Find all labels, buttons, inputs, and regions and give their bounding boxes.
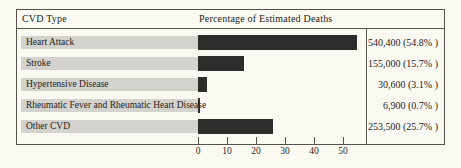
category-label: Stroke bbox=[26, 57, 51, 70]
cvd-deaths-figure: CVD Type Percentage of Estimated Deaths … bbox=[0, 0, 461, 168]
category-strip: Heart Attack bbox=[21, 36, 199, 49]
value-label: 30,600 (3.1% ) bbox=[378, 77, 438, 92]
value-label: 155,000 (15.7% ) bbox=[368, 56, 438, 71]
category-label: Other CVD bbox=[26, 120, 70, 133]
axis-tick bbox=[227, 137, 228, 144]
axis-tick bbox=[314, 137, 315, 144]
column-header-percentage: Percentage of Estimated Deaths bbox=[199, 10, 332, 28]
bar-other-cvd bbox=[198, 119, 273, 134]
value-label: 6,900 (0.7% ) bbox=[383, 98, 438, 113]
column-header-cvd-type: CVD Type bbox=[22, 10, 67, 28]
bar-stroke bbox=[198, 56, 244, 71]
chart-header: CVD Type Percentage of Estimated Deaths bbox=[17, 10, 444, 29]
axis-tick bbox=[256, 137, 257, 144]
value-label: 540,400 (54.8% ) bbox=[368, 35, 438, 50]
category-label: Hypertensive Disease bbox=[26, 78, 109, 91]
category-strip: Other CVD bbox=[21, 120, 199, 133]
bar-heart-attack bbox=[198, 35, 357, 50]
axis-tick bbox=[285, 137, 286, 144]
category-strip: Rheumatic Fever and Rheumatic Heart Dise… bbox=[21, 99, 199, 112]
category-strip: Hypertensive Disease bbox=[21, 78, 199, 91]
axis-tick-label: 30 bbox=[274, 146, 296, 156]
category-strip: Stroke bbox=[21, 57, 199, 70]
axis-tick-label: 0 bbox=[187, 146, 209, 156]
axis-tick bbox=[198, 137, 199, 144]
axis-tick-label: 20 bbox=[245, 146, 267, 156]
category-label: Rheumatic Fever and Rheumatic Heart Dise… bbox=[26, 99, 206, 112]
category-label: Heart Attack bbox=[26, 36, 74, 49]
values-column-separator bbox=[366, 28, 367, 144]
bar-hypertensive-disease bbox=[198, 77, 207, 92]
value-label: 253,500 (25.7% ) bbox=[368, 119, 438, 134]
bar-rheumatic-fever-and-rheumatic-heart-disease bbox=[198, 98, 200, 113]
axis-tick-label: 40 bbox=[303, 146, 325, 156]
chart-box: CVD Type Percentage of Estimated Deaths … bbox=[16, 9, 445, 145]
axis-tick-label: 50 bbox=[332, 146, 354, 156]
axis-tick-label: 10 bbox=[216, 146, 238, 156]
axis-tick bbox=[343, 137, 344, 144]
